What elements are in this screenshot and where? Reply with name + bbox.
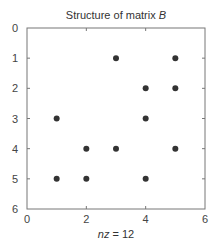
x-axis-label-value: = 12	[109, 228, 134, 240]
spy-plot: Structure of matrix B 02460123456 nz = 1…	[0, 0, 216, 245]
y-tick-label: 5	[12, 173, 18, 185]
nonzero-marker	[113, 146, 119, 152]
nonzero-marker	[143, 116, 149, 122]
y-tick-label: 1	[12, 52, 18, 64]
nonzero-marker	[54, 116, 60, 122]
y-tick-label: 3	[12, 113, 18, 125]
x-tick-label: 6	[202, 213, 208, 225]
y-tick-label: 0	[12, 22, 18, 34]
nonzero-marker	[143, 85, 149, 91]
axis-tick-labels: 02460123456	[12, 22, 208, 225]
nonzero-marker	[172, 146, 178, 152]
plot-area: 02460123456	[0, 0, 216, 245]
nonzero-marker	[143, 176, 149, 182]
x-axis-label-var: nz	[98, 228, 110, 240]
nonzero-marker	[172, 55, 178, 61]
y-tick-label: 2	[12, 82, 18, 94]
y-tick-label: 6	[12, 203, 18, 215]
nonzero-marker	[83, 176, 89, 182]
nonzero-markers	[54, 55, 179, 182]
nonzero-marker	[54, 176, 60, 182]
nonzero-marker	[172, 85, 178, 91]
x-axis-label: nz = 12	[27, 228, 205, 240]
y-tick-label: 4	[12, 143, 18, 155]
x-tick-label: 0	[24, 213, 30, 225]
x-tick-label: 4	[143, 213, 149, 225]
nonzero-marker	[83, 146, 89, 152]
x-tick-label: 2	[83, 213, 89, 225]
nonzero-marker	[113, 55, 119, 61]
